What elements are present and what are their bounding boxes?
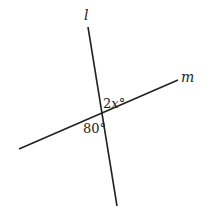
angle-diagram: l m 2x° 80°: [0, 0, 210, 220]
angle-2x-coef: 2: [103, 96, 111, 111]
line-m-label: m: [181, 69, 194, 85]
angle-2x-label: 2x°: [103, 96, 125, 111]
angle-2x-deg: °: [119, 96, 126, 111]
line-l-label: l: [84, 7, 88, 23]
angle-80-label: 80°: [83, 121, 106, 136]
